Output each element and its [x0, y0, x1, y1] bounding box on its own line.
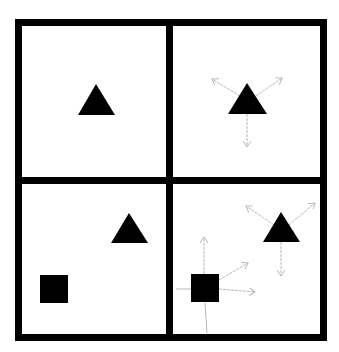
motion-arrow-icon: [212, 79, 240, 96]
panel-bottom-left: [40, 213, 148, 303]
motion-arrow-icon: [246, 206, 274, 225]
panel-bottom-right: [176, 203, 315, 333]
motion-arrow-icon: [289, 203, 315, 225]
panels: [40, 78, 315, 333]
square-shape: [40, 275, 68, 303]
shape-grid-diagram: [0, 0, 339, 352]
diagram-canvas: [0, 0, 339, 352]
triangle-shape: [111, 213, 148, 243]
motion-arrow-icon: [219, 263, 248, 280]
triangle-shape: [263, 212, 300, 242]
triangle-shape: [78, 84, 115, 115]
horizontal-divider: [18, 177, 324, 184]
motion-arrow-icon: [256, 78, 282, 96]
triangle-shape: [228, 83, 267, 114]
panel-top-left: [78, 84, 115, 115]
panel-top-right: [212, 78, 282, 147]
motion-arrow-icon: [219, 289, 255, 292]
guide-line: [205, 303, 207, 333]
square-shape: [191, 274, 219, 302]
